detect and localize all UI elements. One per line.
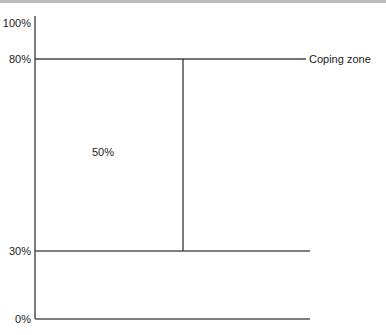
coping-zone-diagram: 100% 80% 30% 0% 50% Coping zone [0, 0, 386, 335]
tick-30: 30% [9, 245, 31, 257]
tick-80: 80% [9, 53, 31, 65]
coping-zone-label: Coping zone [309, 53, 371, 65]
tick-100: 100% [3, 17, 31, 29]
band-label: 50% [92, 146, 114, 158]
tick-0: 0% [15, 313, 31, 325]
